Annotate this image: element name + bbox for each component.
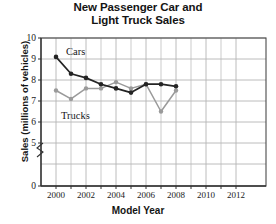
chart-figure: New Passenger Car and Light Truck Sales … <box>0 0 276 224</box>
plot-area <box>0 0 276 224</box>
plot-frame <box>38 38 266 189</box>
y-axis-break-icon <box>37 143 43 157</box>
grid-lines <box>41 38 266 186</box>
